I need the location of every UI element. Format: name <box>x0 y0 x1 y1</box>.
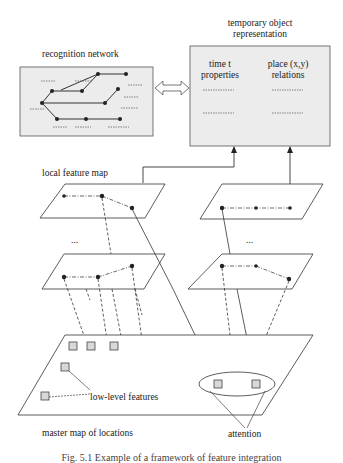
master-map <box>18 335 313 428</box>
ellipsis-right: ... <box>246 235 253 246</box>
master-map-label: master map of locations <box>42 428 133 439</box>
low-level-features-label: low-level features <box>90 392 158 403</box>
feature-map-right-top <box>200 184 323 219</box>
feature-map-left-lower <box>42 254 165 289</box>
relations-label: relations <box>260 70 316 81</box>
ellipsis-left: ... <box>71 235 78 246</box>
recognition-network-box <box>20 67 153 136</box>
feature-map-right-lower <box>188 254 313 289</box>
recognition-network-label: recognition network <box>42 49 119 60</box>
temporary-object-label-line2: representation <box>200 29 320 40</box>
temporary-object-label-line1: temporary object <box>200 18 320 29</box>
properties-label: properties <box>193 70 247 81</box>
double-arrow-icon <box>155 81 189 95</box>
place-xy-label: place (x,y) <box>260 59 316 70</box>
feature-map-left-top <box>40 184 165 218</box>
time-t-label: time t <box>195 59 245 70</box>
attention-label: attention <box>228 429 261 440</box>
figure-caption: Fig. 5.1 Example of a framework of featu… <box>0 452 343 463</box>
local-feature-map-label: local feature map <box>42 168 108 179</box>
